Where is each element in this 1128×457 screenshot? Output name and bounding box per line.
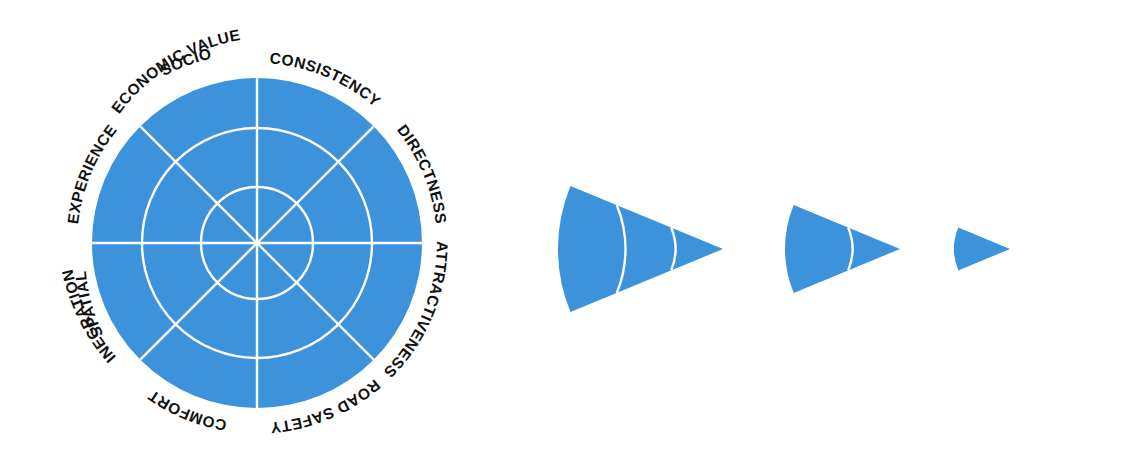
wheel-spoke-gridlines: [92, 78, 422, 408]
radar-wheel-figure: CONSISTENCY DIRECTNESS ATTRACTIVENESS RO…: [0, 0, 1128, 457]
